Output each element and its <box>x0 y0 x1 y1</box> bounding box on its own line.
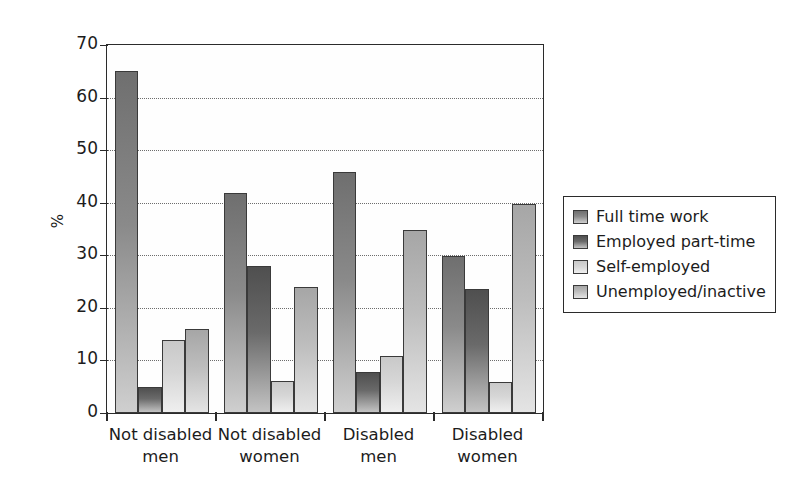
y-tick-label: 60 <box>64 88 98 105</box>
y-tick-label: 20 <box>64 298 98 315</box>
x-axis-category-labels: Not disabledmenNot disabledwomenDisabled… <box>106 424 545 484</box>
legend-item-label: Self-employed <box>596 257 710 276</box>
y-tick-mark <box>100 308 108 309</box>
legend-item[interactable]: Self-employed <box>573 254 766 279</box>
x-tick-mark <box>215 412 217 421</box>
bar <box>356 372 380 413</box>
bar <box>224 193 248 413</box>
bar-series-container <box>107 45 543 413</box>
bar <box>115 71 139 413</box>
y-tick-label: 50 <box>64 140 98 157</box>
x-category-label: Not disabledmen <box>101 424 221 468</box>
bar <box>138 387 162 413</box>
bar <box>247 266 271 413</box>
x-category-label: Disabledmen <box>319 424 439 468</box>
plot-area <box>106 44 544 414</box>
legend-item[interactable]: Full time work <box>573 204 766 229</box>
y-tick-label: 70 <box>64 35 98 52</box>
x-tick-mark <box>106 412 108 421</box>
legend-item-label: Employed part-time <box>596 232 755 251</box>
y-tick-mark <box>100 203 108 204</box>
x-category-label: Not disabledwomen <box>210 424 330 468</box>
bar-chart-figure: % 70 60 50 40 30 20 10 0 Not disabledmen… <box>0 0 798 492</box>
legend-item-label: Unemployed/inactive <box>596 282 766 301</box>
x-category-label-line1: Not disabled <box>218 425 322 444</box>
bar <box>162 340 186 413</box>
legend-swatch-icon <box>573 260 588 274</box>
y-tick-label: 0 <box>64 403 98 420</box>
legend: Full time workEmployed part-timeSelf-emp… <box>563 196 776 313</box>
x-category-label-line2: men <box>101 446 221 468</box>
x-category-label-line2: women <box>210 446 330 468</box>
y-tick-mark <box>100 255 108 256</box>
bar <box>185 329 209 413</box>
bar <box>442 256 466 413</box>
x-category-label-line1: Disabled <box>452 425 524 444</box>
bar <box>271 381 295 413</box>
bar <box>380 356 404 413</box>
x-category-label-line1: Not disabled <box>109 425 213 444</box>
y-tick-mark <box>100 98 108 99</box>
x-category-label-line1: Disabled <box>343 425 415 444</box>
legend-swatch-icon <box>573 235 588 249</box>
bar <box>333 172 357 413</box>
legend-swatch-icon <box>573 285 588 299</box>
x-category-label-line2: men <box>319 446 439 468</box>
x-tick-mark <box>542 412 544 421</box>
x-axis-tick-marks <box>106 412 545 422</box>
legend-item[interactable]: Employed part-time <box>573 229 766 254</box>
bar <box>294 287 318 413</box>
y-tick-label: 10 <box>64 350 98 367</box>
bar <box>465 289 489 413</box>
bar <box>512 204 536 413</box>
x-tick-mark <box>433 412 435 421</box>
x-category-label: Disabledwomen <box>428 424 548 468</box>
y-tick-label: 40 <box>64 193 98 210</box>
y-axis-tick-labels: 70 60 50 40 30 20 10 0 <box>64 0 98 492</box>
y-tick-label: 30 <box>64 245 98 262</box>
x-tick-mark <box>324 412 326 421</box>
y-tick-mark <box>100 150 108 151</box>
x-category-label-line2: women <box>428 446 548 468</box>
legend-item-label: Full time work <box>596 207 708 226</box>
legend-item[interactable]: Unemployed/inactive <box>573 279 766 304</box>
y-tick-mark <box>100 360 108 361</box>
bar <box>489 382 513 413</box>
y-tick-mark <box>100 45 108 46</box>
bar <box>403 230 427 413</box>
legend-swatch-icon <box>573 210 588 224</box>
